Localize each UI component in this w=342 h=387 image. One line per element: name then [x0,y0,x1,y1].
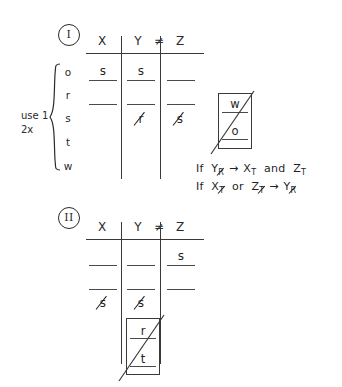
section1-row-label-4: w [62,160,74,172]
section1-header-z: Z [172,34,188,48]
section1-brace [48,62,62,174]
section1-cell-r0-x: s [95,64,111,78]
section1-row-label-0: o [62,66,74,78]
section2-blank-r1-z[interactable] [167,289,195,290]
section1-cell-r2-y-struck: r [133,111,149,127]
condition1-consequent1-sub: T [251,168,256,177]
condition2-prefix: If [196,180,204,193]
section1-blank-r0-x[interactable] [89,80,117,81]
section-marker-2: II [58,207,80,229]
section1-relation-not-equal: ≠ [152,34,166,48]
section2-blank-r0-x[interactable] [89,265,117,266]
condition1-consequent1-base: X [243,162,251,175]
condition1-consequent2-sub: T [301,168,306,177]
section1-row-label-2: s [62,112,74,124]
section1-blank-r0-z[interactable] [167,80,195,81]
section2-blank-r0-z[interactable] [167,265,195,266]
section1-row-label-1: r [62,89,74,101]
condition1-prefix: If [196,162,204,175]
section1-blank-r1-x[interactable] [89,104,117,105]
section-marker-1: I [58,24,80,46]
section2-cell-r0-z: s [173,249,189,263]
section1-blank-r0-y[interactable] [127,80,155,81]
section2-relation-not-equal: ≠ [152,220,166,234]
section1-row-label-3: t [62,136,74,148]
section1-blank-r1-z[interactable] [167,104,195,105]
section2-header-rule [86,239,204,240]
section2-header-y: Y [130,220,146,234]
condition2-arrow: → [268,180,280,193]
section1-header-y: Y [130,34,146,48]
section2-cell-r2-y-struck: s [133,295,149,311]
condition1-antecedent-sub: R [218,168,224,177]
condition2-antecedent2-sub: T [259,186,264,195]
condition-line-2: If XT or ZT → YR [196,180,296,195]
section2-header-z: Z [172,220,188,234]
section1-blank-r1-y[interactable] [127,104,155,105]
section2-header-x: X [94,220,110,234]
section2-blank-r1-x[interactable] [89,289,117,290]
condition1-arrow: → [228,162,240,175]
section1-cell-r2-z-struck: s [172,111,188,127]
section1-header-rule [86,53,204,54]
condition1-conjunction: and [264,162,286,175]
section2-blank-r0-y[interactable] [127,265,155,266]
condition-line-1: If YR → XT and ZT [196,162,306,177]
section2-inner-box-diagonal-slash [116,312,170,384]
condition2-consequent-sub: R [291,186,297,195]
section1-divider-xy [121,36,122,179]
worksheet-canvas: I X Y ≠ Z s s r s o r s t w use 1 2x w o… [0,0,342,387]
section1-header-x: X [94,34,110,48]
section1-side-note: use 1 2x [21,109,48,137]
section1-divider-yz [160,36,161,179]
section2-blank-r1-y[interactable] [127,289,155,290]
condition2-antecedent1-sub: T [219,186,224,195]
side-box-diagonal-slash [208,88,260,158]
condition2-conjunction: or [232,180,244,193]
section1-cell-r0-y: s [133,64,149,78]
section2-cell-r2-x-struck: s [95,295,111,311]
condition1-consequent2-base: Z [293,162,301,175]
